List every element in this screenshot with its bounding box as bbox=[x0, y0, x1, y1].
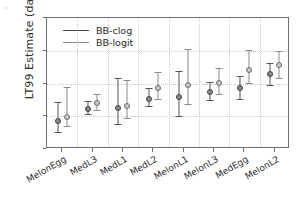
error-bar-line bbox=[57, 102, 58, 131]
error-bar-line bbox=[188, 49, 189, 104]
legend: BB-clog BB-logit bbox=[63, 24, 133, 48]
error-bar-cap bbox=[154, 99, 161, 100]
error-bar bbox=[91, 94, 103, 110]
error-bar-line bbox=[66, 87, 67, 126]
data-point-marker bbox=[94, 100, 100, 106]
error-bar-line bbox=[127, 80, 128, 118]
error-bar-cap bbox=[236, 99, 243, 100]
x-gridline bbox=[169, 18, 170, 147]
x-tick-mark bbox=[152, 148, 153, 152]
error-bar-cap bbox=[185, 104, 192, 105]
error-bar bbox=[243, 50, 255, 83]
y-axis-title: LT99 Estimate (days) bbox=[23, 0, 36, 116]
legend-line-icon bbox=[63, 30, 89, 31]
error-bar bbox=[61, 87, 73, 126]
error-bar-cap bbox=[245, 83, 252, 84]
error-bar bbox=[182, 49, 194, 104]
legend-label: BB-logit bbox=[96, 37, 133, 48]
error-bar-cap bbox=[145, 106, 152, 107]
corner-artifact bbox=[4, 6, 8, 10]
plot-panel: BB-clog BB-logit bbox=[46, 17, 289, 148]
x-tick-mark bbox=[274, 148, 275, 152]
error-bar-cap bbox=[124, 118, 131, 119]
error-bar-line bbox=[118, 78, 119, 124]
error-bar-cap bbox=[245, 50, 252, 51]
chart-figure: LT99 Estimate (days) 05101520 BB-clog BB… bbox=[0, 0, 300, 205]
x-gridline bbox=[199, 18, 200, 147]
y-tick-mark bbox=[43, 148, 46, 149]
error-bar-cap bbox=[63, 126, 70, 127]
error-bar bbox=[121, 80, 133, 118]
error-bar bbox=[152, 72, 164, 98]
x-tick-mark bbox=[122, 148, 123, 152]
error-bar-cap bbox=[94, 110, 101, 111]
error-bar-cap bbox=[185, 49, 192, 50]
data-point-marker bbox=[185, 82, 191, 88]
error-bar-cap bbox=[206, 100, 213, 101]
error-bar-cap bbox=[215, 94, 222, 95]
error-bar bbox=[273, 51, 285, 79]
y-gridline bbox=[47, 116, 288, 117]
x-tick-mark bbox=[243, 148, 244, 152]
error-bar-cap bbox=[54, 132, 61, 133]
error-bar-cap bbox=[85, 114, 92, 115]
x-gridline bbox=[229, 18, 230, 147]
x-gridline bbox=[260, 18, 261, 147]
error-bar-cap bbox=[154, 72, 161, 73]
x-tick-mark bbox=[183, 148, 184, 152]
error-bar-cap bbox=[276, 78, 283, 79]
error-bar-cap bbox=[215, 68, 222, 69]
legend-item-bb-clog: BB-clog bbox=[63, 24, 133, 36]
error-bar-cap bbox=[94, 94, 101, 95]
error-bar-cap bbox=[124, 80, 131, 81]
x-tick-label: MelonL2 bbox=[222, 154, 281, 194]
legend-label: BB-clog bbox=[96, 25, 132, 36]
error-bar-cap bbox=[176, 116, 183, 117]
legend-item-bb-logit: BB-logit bbox=[63, 36, 133, 48]
x-tick-mark bbox=[61, 148, 62, 152]
data-point-marker bbox=[216, 80, 222, 86]
legend-line-icon bbox=[63, 42, 89, 43]
data-point-marker bbox=[124, 103, 130, 109]
error-bar bbox=[213, 68, 225, 94]
x-gridline bbox=[138, 18, 139, 147]
data-point-marker bbox=[155, 85, 161, 91]
error-bar-cap bbox=[63, 87, 70, 88]
data-point-marker bbox=[276, 62, 282, 68]
data-point-marker bbox=[237, 85, 243, 91]
x-tick-mark bbox=[92, 148, 93, 152]
error-bar-cap bbox=[267, 85, 274, 86]
x-tick-mark bbox=[213, 148, 214, 152]
data-point-marker bbox=[64, 114, 70, 120]
error-bar-cap bbox=[276, 51, 283, 52]
data-point-marker bbox=[246, 67, 252, 73]
error-bar-cap bbox=[115, 124, 122, 125]
